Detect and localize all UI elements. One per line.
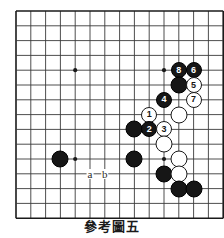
diagram-caption: 參考圖五 [0,216,224,235]
stone-black-6[interactable]: 6 [186,62,202,78]
stone-move-number: 3 [161,125,166,134]
stone-white-plain-a[interactable] [170,106,187,123]
stone-black-plain-d[interactable] [126,151,143,168]
point-marker-b[interactable]: b [101,169,109,179]
stone-move-number: 4 [161,95,166,104]
stone-move-number: 1 [147,110,152,119]
stone-white-1[interactable]: 1 [141,107,157,123]
stone-white-7[interactable]: 7 [186,92,202,108]
stone-white-plain-b[interactable] [156,136,173,153]
stone-black-2[interactable]: 2 [141,121,157,137]
stone-move-number: 8 [176,66,181,75]
stone-move-number: 5 [191,81,196,90]
stone-move-number: 6 [191,66,196,75]
go-board[interactable]: 86547123 ab [15,10,215,210]
stone-white-5[interactable]: 5 [186,77,202,93]
stone-move-number: 7 [191,95,196,104]
stone-black-plain-g[interactable] [185,180,202,197]
stone-black-plain-c[interactable] [52,151,69,168]
point-marker-a[interactable]: a [87,169,94,179]
stone-black-4[interactable]: 4 [156,92,172,108]
go-diagram: 86547123 ab 參考圖五 [0,0,224,238]
stone-move-number: 2 [147,125,152,134]
